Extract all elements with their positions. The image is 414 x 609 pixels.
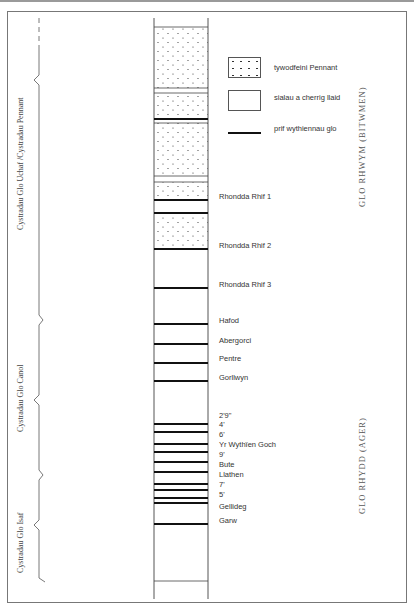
legend-sandstone-label: tywodfeini Pennant [274,63,337,72]
seam-label: Abergorci [219,336,251,345]
seam-label: Gorllwyn [219,373,248,382]
coal-type-bituminous: GLO RHWYM (BITWMEN) [357,86,367,207]
stratigraphic-column [0,0,414,609]
seam-label: 5' [219,490,225,499]
coal-type-steam: GLO RHYDD (AGER) [357,417,367,514]
seam-label: Pentre [219,354,241,363]
legend-coal-label: prif wythiennau glo [274,124,337,133]
legend-coal-swatch [228,132,261,134]
seam-label: 4' [219,420,225,429]
seam-label: Hafod [219,316,239,325]
seam-label: Bute [219,460,234,469]
seam-label: Llathen [219,470,244,479]
legend-shale-swatch [228,90,261,111]
seam-label: 2'9" [219,411,231,420]
seam-label: Garw [219,516,237,525]
seam-label: 6' [219,430,225,439]
group-label-middle: Cystradau Glo Canol [16,364,25,432]
legend-shale-label: sialau a cherrig llaid [274,93,340,102]
group-label-lower: Cystradau Glo Isaf [16,513,25,573]
seam-label: Rhondda Rhif 3 [219,280,271,289]
legend-sandstone-swatch [228,57,261,78]
seam-label: Rhondda Rhif 1 [219,192,271,201]
seam-label: 7' [219,480,225,489]
seam-label: 9' [219,450,225,459]
seam-label: Gellideg [219,502,247,511]
seam-label: Rhondda Rhif 2 [219,241,271,250]
seam-label: Yr Wythïen Goch [219,440,276,449]
group-label-upper: Cystradau Glo Uchaf /Cystradau Pennant [16,98,25,230]
